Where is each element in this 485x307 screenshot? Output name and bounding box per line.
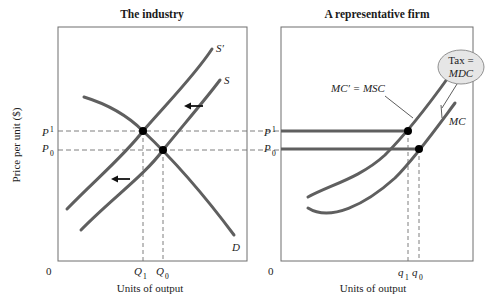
industry-panel-title: The industry [120,8,184,21]
industry-panel: The industry S′ S D P 1 [41,8,281,294]
right-x-axis-label: Units of output [340,282,407,294]
left-origin-label: 0 [46,265,52,277]
supply-shifted-label: S′ [216,42,225,54]
right-p0-tick-label: P 0 [263,142,276,158]
mc-shifted-leader-line [385,96,413,118]
right-p1-tick-label: P 1 [263,125,276,138]
svg-text:0: 0 [419,273,423,282]
svg-text:1: 1 [405,273,409,282]
right-origin-label: 0 [268,265,274,277]
q0-tick-label: Q 0 [156,265,169,281]
q1-firm-tick-label: q 1 [398,266,409,282]
tax-bubble: Tax = MDC [438,50,484,84]
supply-label: S [224,74,230,86]
svg-text:1: 1 [272,125,276,134]
svg-text:1: 1 [50,125,54,134]
svg-text:q: q [412,266,418,278]
externality-tax-diagram: Price per unit ($) The industry S′ S D [0,0,485,307]
svg-text:0: 0 [165,272,169,281]
firm-point-original [415,145,423,153]
svg-text:P: P [263,142,271,154]
svg-text:Q: Q [134,265,142,277]
svg-text:P: P [263,126,271,138]
tax-bubble-line1: Tax = [448,54,473,66]
firm-panel: A representative firm MC′ = MSC MC Tax =… [263,8,484,294]
equilibrium-point-new [139,127,147,135]
firm-point-new [404,127,412,135]
svg-text:P: P [41,142,49,154]
svg-text:0: 0 [50,149,54,158]
svg-text:0: 0 [272,149,276,158]
svg-text:P: P [41,126,49,138]
left-p1-tick-label: P 1 [41,125,54,138]
svg-text:1: 1 [143,272,147,281]
y-axis-label: Price per unit ($) [10,107,23,182]
svg-text:q: q [398,266,404,278]
mc-leader-line [441,105,442,118]
mc-shifted-label: MC′ = MSC [330,82,385,94]
left-x-axis-label: Units of output [117,282,184,294]
mc-label: MC [448,115,466,127]
tax-bubble-line2: MDC [448,67,474,79]
left-p0-tick-label: P 0 [41,142,54,158]
q1-tick-label: Q 1 [134,265,147,281]
demand-curve [84,97,234,235]
demand-label: D [231,241,240,253]
equilibrium-point-original [159,146,167,154]
firm-panel-title: A representative firm [325,8,430,21]
shift-arrow-lower [111,176,130,183]
q0-firm-tick-label: q 0 [412,266,423,282]
svg-text:Q: Q [156,265,164,277]
